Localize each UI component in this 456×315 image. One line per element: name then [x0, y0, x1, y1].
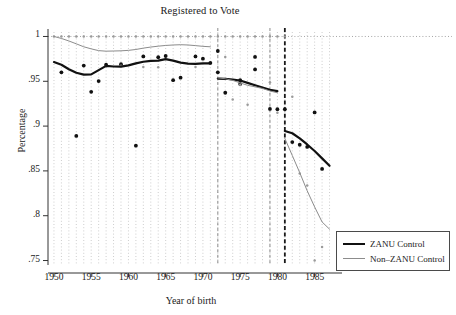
fitted-lines	[54, 36, 330, 229]
x-axis-title: Year of birth	[48, 295, 334, 306]
legend-item-non-zanu: Non–ZANU Control	[341, 251, 445, 266]
reference-lines	[218, 28, 285, 265]
legend-item-zanu: ZANU Control	[341, 236, 445, 251]
chart-legend: ZANU Control Non–ZANU Control	[336, 231, 450, 271]
legend-label-zanu: ZANU Control	[370, 239, 425, 249]
chart-figure: Registered to Vote 1.95.9.85.8.75 195019…	[0, 0, 456, 315]
legend-swatch-non-zanu	[343, 258, 365, 259]
y-tick-label: .8	[6, 209, 40, 219]
x-tick-label: 1985	[293, 272, 337, 282]
y-tick-label: 1	[6, 29, 40, 39]
axis-lines	[43, 29, 342, 277]
y-tick-label: .75	[6, 254, 40, 264]
y-axis-title: Percentage	[16, 71, 27, 191]
legend-label-non-zanu: Non–ZANU Control	[370, 254, 445, 264]
legend-swatch-zanu	[343, 243, 365, 245]
